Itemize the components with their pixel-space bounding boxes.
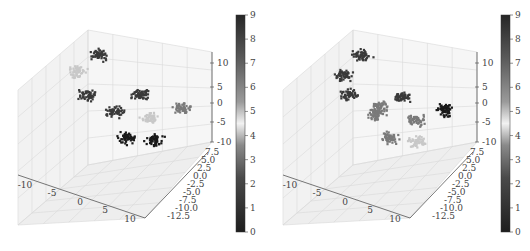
axes-3d: -10-505107.55.02.50.0-2.5-5.0-7.5-10.0-1… [283, 30, 497, 225]
z-tick-label: 10 [217, 58, 229, 68]
x-tick-label: 5 [367, 205, 373, 215]
colorbar-tick-label: 5 [250, 106, 256, 116]
x-tick-label: 10 [124, 214, 136, 224]
z-tick-label: -10 [482, 137, 497, 147]
z-tick-label: -10 [217, 137, 232, 147]
colorbar-tick-label: 7 [250, 58, 256, 68]
colorbar: 9876543210 [236, 10, 256, 237]
colorbar-tick-label: 9 [250, 10, 256, 20]
z-tick-label: 5 [482, 82, 488, 92]
axes-3d: -10-505107.55.02.50.0-2.5-5.0-7.5-10.0-1… [18, 30, 232, 225]
x-tick-label: -5 [48, 188, 57, 198]
colorbar-tick-label: 3 [250, 155, 256, 165]
z-tick-label: 0 [482, 98, 488, 108]
x-tick-label: -10 [18, 180, 33, 190]
x-tick-label: -10 [283, 180, 298, 190]
x-tick-label: 0 [342, 197, 348, 207]
z-tick-label: -5 [217, 117, 226, 127]
colorbar-tick-label: 0 [515, 227, 521, 237]
colorbar-tick-label: 8 [515, 34, 521, 44]
right-3d-scatter-panel: -10-505107.55.02.50.0-2.5-5.0-7.5-10.0-1… [265, 0, 530, 251]
colorbar-tick-label: 1 [250, 203, 256, 213]
z-tick-label: 0 [217, 98, 223, 108]
colorbar-tick-label: 7 [515, 58, 521, 68]
colorbar-tick-label: 2 [250, 179, 256, 189]
colorbar-tick-label: 4 [515, 131, 521, 141]
chart-svg: -10-505107.55.02.50.0-2.5-5.0-7.5-10.0-1… [265, 0, 530, 251]
colorbar-tick-label: 2 [515, 179, 521, 189]
x-tick-label: 10 [389, 214, 401, 224]
x-tick-label: 5 [102, 205, 108, 215]
z-tick-label: 10 [482, 58, 494, 68]
y-tick-label: -12.5 [432, 211, 455, 221]
colorbar-tick-label: 8 [250, 34, 256, 44]
colorbar-tick-label: 0 [250, 227, 256, 237]
left-3d-scatter-panel: -10-505107.55.02.50.0-2.5-5.0-7.5-10.0-1… [0, 0, 265, 251]
colorbar-tick-label: 4 [250, 131, 256, 141]
colorbar-tick-label: 5 [515, 106, 521, 116]
colorbar: 9876543210 [501, 10, 521, 237]
chart-svg: -10-505107.55.02.50.0-2.5-5.0-7.5-10.0-1… [0, 0, 265, 251]
colorbar-tick-label: 9 [515, 10, 521, 20]
x-tick-label: -5 [313, 188, 322, 198]
y-tick-label: -12.5 [167, 211, 190, 221]
x-tick-label: 0 [77, 197, 83, 207]
z-tick-label: -5 [482, 117, 491, 127]
z-tick-label: 5 [217, 82, 223, 92]
colorbar-tick-label: 6 [515, 82, 521, 92]
colorbar-tick-label: 6 [250, 82, 256, 92]
colorbar-tick-label: 1 [515, 203, 521, 213]
colorbar-tick-label: 3 [515, 155, 521, 165]
